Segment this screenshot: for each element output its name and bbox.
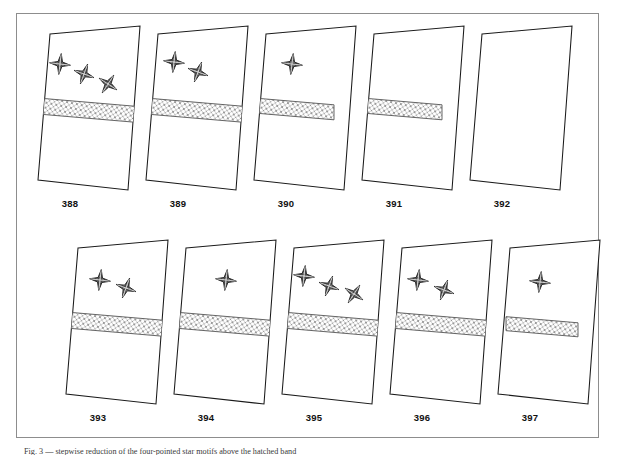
panel-label-394: 394 (176, 412, 236, 423)
panel-label-393: 393 (68, 412, 128, 423)
panel-label-388: 388 (40, 198, 100, 209)
panel-396 (384, 236, 496, 411)
panel-392 (464, 22, 576, 197)
panel-397 (492, 236, 604, 411)
panel-label-391: 391 (364, 198, 424, 209)
figure-caption: Fig. 3 — stepwise reduction of the four-… (24, 447, 594, 455)
panel-391 (356, 22, 468, 197)
panel-label-392: 392 (472, 198, 532, 209)
panel-label-396: 396 (392, 412, 452, 423)
figure-plate: 388389390391392393394395396397 Fig. 3 — … (0, 0, 617, 455)
panel-393 (60, 236, 172, 411)
panel-390 (248, 22, 360, 197)
panel-394 (168, 236, 280, 411)
panel-388 (32, 22, 144, 197)
panel-label-390: 390 (256, 198, 316, 209)
panel-395 (276, 236, 388, 411)
panel-label-389: 389 (148, 198, 208, 209)
panel-outline (470, 26, 572, 190)
panel-389 (140, 22, 252, 197)
panel-label-397: 397 (500, 412, 560, 423)
panel-label-395: 395 (284, 412, 344, 423)
